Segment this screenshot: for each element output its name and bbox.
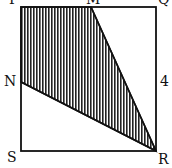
label-m: M: [86, 0, 100, 7]
label-s: S: [7, 149, 17, 165]
label-side-length: 4: [160, 73, 169, 89]
shaded-region: [21, 7, 156, 151]
label-n: N: [4, 73, 16, 89]
label-q: Q: [158, 0, 169, 7]
label-r: R: [158, 151, 169, 167]
geometry-diagram: P M Q N 4 S R: [0, 0, 172, 168]
label-p: P: [9, 0, 18, 7]
